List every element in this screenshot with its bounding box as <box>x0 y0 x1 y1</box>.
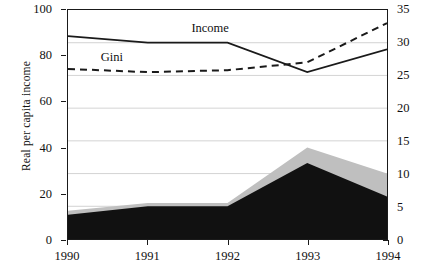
y-axis-left-tick-mark <box>61 55 66 56</box>
y-axis-right-tick-label: 15 <box>397 134 410 149</box>
x-axis-tick-mark <box>147 240 148 245</box>
y-axis-left: 020406080100 <box>22 9 60 240</box>
x-axis-tick-mark <box>308 240 309 245</box>
y-axis-right-tick-label: 10 <box>397 167 410 182</box>
y-axis-right-tick-label: 0 <box>397 233 403 248</box>
y-axis-left-tick-label: 80 <box>40 48 53 63</box>
y-axis-right: 05101520253035 <box>388 9 424 240</box>
x-axis-tick-label: 1990 <box>55 249 80 264</box>
y-axis-right-tick-label: 5 <box>397 200 403 215</box>
x-axis-tick-label: 1992 <box>215 249 240 264</box>
y-axis-left-tick-mark <box>61 148 66 149</box>
x-axis-tick-label: 1994 <box>376 249 401 264</box>
x-axis-tick-label: 1993 <box>295 249 320 264</box>
y-axis-left-tick-label: 20 <box>40 186 53 201</box>
y-axis-right-tick-label: 25 <box>397 68 410 83</box>
line-series <box>68 10 387 239</box>
y-axis-left-tick-mark <box>61 194 66 195</box>
y-axis-left-tick-label: 100 <box>33 2 52 17</box>
gini-series-label: Gini <box>101 50 123 65</box>
y-axis-right-tick-label: 35 <box>397 2 410 17</box>
y-axis-left-tick-mark <box>61 240 66 241</box>
x-axis-tick-mark <box>388 240 389 245</box>
y-axis-left-tick-mark <box>61 101 66 102</box>
x-axis-tick-label: 1991 <box>135 249 160 264</box>
y-axis-right-tick-label: 30 <box>397 35 410 50</box>
y-axis-left-tick-label: 0 <box>46 233 52 248</box>
x-axis: 19901991199219931994 <box>67 240 388 272</box>
x-axis-tick-mark <box>67 240 68 245</box>
y-axis-right-tick-label: 20 <box>397 101 410 116</box>
plot-area <box>67 9 388 240</box>
chart-figure: Real per capita income 020406080100 0510… <box>0 0 426 277</box>
y-axis-left-tick-label: 40 <box>40 140 53 155</box>
y-axis-left-tick-label: 60 <box>40 94 53 109</box>
y-axis-left-tick-mark <box>61 9 66 10</box>
x-axis-tick-mark <box>228 240 229 245</box>
income-series-label: Income <box>191 21 228 36</box>
